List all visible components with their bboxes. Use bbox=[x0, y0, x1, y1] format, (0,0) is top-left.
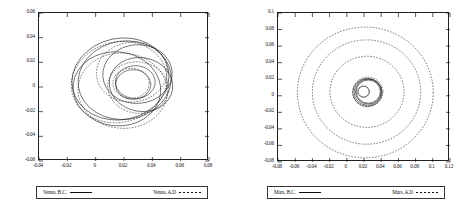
x-tick-label: 0.08 bbox=[204, 163, 212, 168]
x-tick-label: 0.06 bbox=[393, 164, 401, 169]
x-tick-label: -0.08 bbox=[272, 164, 282, 169]
x-tick-label: 0 bbox=[345, 164, 347, 169]
x-tick-label: 0.04 bbox=[376, 164, 384, 169]
legend-label: Venus, A.D bbox=[153, 190, 176, 195]
y-tick-label: 0.04 bbox=[27, 34, 35, 39]
orbit-curve bbox=[330, 56, 404, 127]
y-tick-label: 0.02 bbox=[27, 59, 35, 64]
x-tick-label: -0.02 bbox=[61, 163, 71, 168]
y-tick-label: 0.08 bbox=[266, 26, 274, 31]
y-tick-label: -0.04 bbox=[25, 133, 35, 138]
orbit-curve bbox=[358, 86, 369, 97]
y-tick-label: 0.04 bbox=[266, 59, 274, 64]
orbit-curve bbox=[312, 40, 420, 144]
venus-curves bbox=[39, 13, 209, 161]
legend-line-sample bbox=[179, 192, 201, 193]
y-tick-label: 0.1 bbox=[268, 9, 274, 14]
orbit-curve bbox=[297, 27, 433, 158]
y-tick-label: -0.02 bbox=[25, 108, 35, 113]
y-tick-label: -0.06 bbox=[264, 142, 274, 147]
y-tick-label: 0.06 bbox=[266, 43, 274, 48]
x-tick-label: 0.02 bbox=[119, 163, 127, 168]
venus-legend: Venus, B.C.Venus, A.D bbox=[36, 186, 208, 199]
x-tick-label: 0.1 bbox=[429, 164, 435, 169]
legend-line-sample bbox=[70, 192, 92, 193]
orbit-curve bbox=[113, 68, 149, 98]
venus-plot-frame bbox=[38, 12, 208, 160]
y-tick-label: -0.08 bbox=[264, 158, 274, 163]
legend-label: Mars, B.C. bbox=[274, 190, 296, 195]
legend-entry: Mars, B.C. bbox=[274, 190, 321, 195]
x-tick-label: -0.04 bbox=[33, 163, 43, 168]
mars-legend: Mars, B.C.Mars, A.D bbox=[267, 186, 445, 199]
x-tick-label: 0.04 bbox=[147, 163, 155, 168]
mars-curves bbox=[278, 13, 450, 162]
legend-entry: Mars, A.D bbox=[392, 190, 438, 195]
orbit-curve bbox=[75, 50, 169, 131]
legend-line-sample bbox=[299, 192, 321, 193]
y-tick-label: 0.02 bbox=[266, 76, 274, 81]
legend-entry: Venus, A.D bbox=[153, 190, 201, 195]
venus-plot-panel: -0.04-0.0200.020.040.060.080.060.040.020… bbox=[0, 0, 232, 214]
y-tick-label: -0.04 bbox=[264, 125, 274, 130]
y-tick-label: -0.06 bbox=[25, 157, 35, 162]
x-tick-label: 0 bbox=[93, 163, 95, 168]
x-tick-label: -0.02 bbox=[324, 164, 334, 169]
mars-plot-frame bbox=[277, 12, 449, 161]
legend-label: Venus, B.C. bbox=[43, 190, 67, 195]
legend-line-sample bbox=[416, 192, 438, 193]
x-tick-label: 0.02 bbox=[359, 164, 367, 169]
legend-label: Mars, A.D bbox=[392, 190, 413, 195]
orbit-curve bbox=[104, 58, 171, 117]
y-tick-label: -0.02 bbox=[264, 109, 274, 114]
x-tick-label: -0.04 bbox=[306, 164, 316, 169]
x-tick-label: -0.06 bbox=[289, 164, 299, 169]
y-tick-label: 0 bbox=[33, 83, 35, 88]
orbit-curve bbox=[355, 79, 381, 104]
legend-entry: Venus, B.C. bbox=[43, 190, 92, 195]
mars-plot-panel: -0.08-0.06-0.04-0.0200.020.040.060.080.1… bbox=[232, 0, 464, 214]
orbit-curve bbox=[93, 39, 170, 106]
y-tick-label: 0 bbox=[272, 92, 274, 97]
orbit-curve bbox=[63, 31, 176, 132]
orbit-curve bbox=[358, 86, 370, 97]
y-tick-label: 0.06 bbox=[27, 9, 35, 14]
orbit-curve bbox=[356, 80, 380, 103]
x-tick-label: 0.12 bbox=[445, 164, 453, 169]
x-tick-label: 0.08 bbox=[410, 164, 418, 169]
x-tick-label: 0.06 bbox=[175, 163, 183, 168]
